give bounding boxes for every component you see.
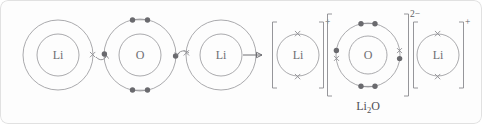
oxide-electron-dot	[358, 84, 363, 89]
compound-formula-label: Li2O	[356, 99, 380, 115]
oxide-electron-dot	[372, 84, 377, 89]
li-plus-left-bracket-open	[273, 22, 278, 88]
li-plus-right-bracket-close	[459, 22, 464, 88]
li-right-symbol: Li	[216, 48, 227, 62]
oxide-bracket-close	[404, 14, 409, 96]
o-electron-dot	[130, 17, 135, 22]
electron-transfer-arrow-left	[96, 56, 109, 60]
product-lithium-ion-left: + Li	[273, 17, 331, 88]
oxide-electron-pair-bottom	[358, 84, 377, 89]
o-electron-dot	[145, 87, 150, 92]
oxide-electron-dot-right	[397, 56, 402, 61]
o-symbol: O	[136, 48, 145, 62]
o-electron-dot	[145, 17, 150, 22]
oxide-symbol: O	[364, 48, 373, 62]
reactant-oxygen: O	[102, 17, 179, 92]
reaction-arrow	[243, 52, 262, 57]
li-plus-left-symbol: Li	[293, 48, 304, 62]
o-electron-pair-bottom	[130, 87, 150, 92]
o-electron-pair-top	[130, 17, 150, 22]
product-oxide-ion: 2− O	[328, 9, 421, 96]
li-plus-right-symbol: Li	[433, 48, 444, 62]
diagram-canvas: Li O	[0, 0, 482, 124]
li-plus-left-electron-cross-bottom	[295, 74, 300, 79]
li-plus-right-charge: +	[465, 17, 470, 27]
formula-suffix: O	[371, 99, 380, 113]
oxide-electron-dot	[372, 21, 377, 26]
reactant-lithium-left: Li	[23, 20, 95, 90]
formula-prefix: Li	[356, 99, 367, 113]
ionic-bonding-diagram: Li O	[0, 0, 482, 124]
o-electron-dot	[130, 87, 135, 92]
oxide-charge: 2−	[410, 9, 420, 19]
oxide-electron-dot-left	[334, 48, 339, 53]
li-plus-left-bracket-close	[319, 22, 324, 88]
product-lithium-ion-right: + Li	[414, 17, 471, 88]
li-left-symbol: Li	[53, 48, 64, 62]
li-plus-right-electron-cross-bottom	[435, 74, 440, 79]
o-electron-dot-left	[102, 51, 107, 56]
oxide-electron-dot	[358, 21, 363, 26]
oxide-electron-pair-top	[358, 21, 377, 26]
